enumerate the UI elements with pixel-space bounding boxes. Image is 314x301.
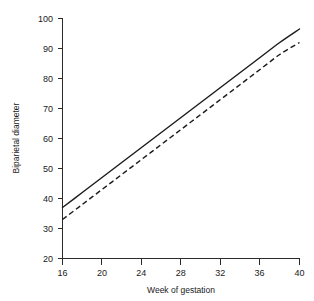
y-tick-label-90: 90 — [43, 44, 53, 54]
growth-chart-svg: 100 90 80 70 60 50 40 30 20 16 20 24 28 … — [0, 0, 314, 301]
series-upper-percentile-line — [63, 29, 300, 208]
x-tick-label-32: 32 — [215, 268, 225, 278]
y-tick-label-50: 50 — [43, 164, 53, 174]
y-tick-label-40: 40 — [43, 194, 53, 204]
chart-container: 100 90 80 70 60 50 40 30 20 16 20 24 28 … — [0, 0, 314, 301]
y-axis-title: Biparietal diameter — [11, 102, 21, 173]
y-tick-label-30: 30 — [43, 224, 53, 234]
y-tick-label-20: 20 — [43, 254, 53, 264]
x-tick-label-36: 36 — [255, 268, 265, 278]
x-tick-label-40: 40 — [294, 268, 304, 278]
series-lower-percentile-line — [63, 43, 300, 220]
y-tick-label-80: 80 — [43, 74, 53, 84]
y-tick-label-70: 70 — [43, 104, 53, 114]
x-tick-label-24: 24 — [136, 268, 146, 278]
x-tick-label-16: 16 — [57, 268, 67, 278]
y-tick-label-100: 100 — [38, 14, 53, 24]
x-axis-title: Week of gestation — [147, 285, 215, 295]
x-tick-label-20: 20 — [97, 268, 107, 278]
y-tick-label-60: 60 — [43, 134, 53, 144]
x-tick-label-28: 28 — [176, 268, 186, 278]
